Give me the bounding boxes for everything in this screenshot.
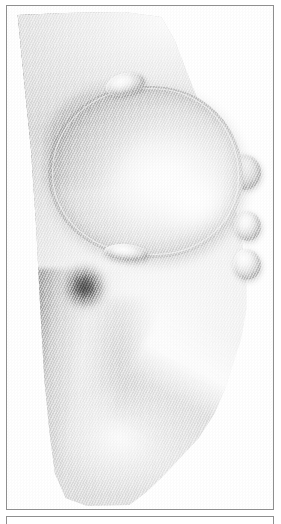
figure-panel bbox=[6, 5, 274, 510]
page-root bbox=[0, 0, 281, 524]
condyle-mass bbox=[48, 86, 243, 258]
lateral-process-3 bbox=[233, 249, 261, 280]
condyle-edge-highlight bbox=[52, 88, 239, 255]
next-figure-panel bbox=[6, 516, 274, 524]
lesion-marker bbox=[63, 267, 106, 309]
anatomical-render-viewport bbox=[7, 6, 273, 509]
